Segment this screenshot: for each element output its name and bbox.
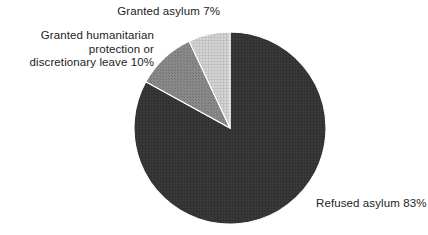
pie-svg [133, 31, 327, 225]
pie-slice-group [134, 32, 326, 224]
pie-label-refused-asylum: Refused asylum 83% [316, 197, 426, 211]
pie-label-granted-humanitarian-protection: Granted humanitarian protection or discr… [0, 29, 154, 70]
pie-chart-graphic [133, 31, 327, 225]
pie-chart-figure: Granted asylum 7% Granted humanitarian p… [0, 0, 428, 235]
pie-label-granted-asylum: Granted asylum 7% [0, 5, 220, 19]
